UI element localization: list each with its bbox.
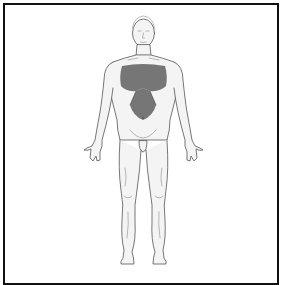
left-arm [84, 62, 113, 161]
right-arm [174, 62, 203, 161]
left-leg [119, 140, 141, 264]
umbilicus [142, 117, 144, 119]
neck [136, 45, 151, 56]
body-figure [0, 0, 285, 285]
head [133, 16, 155, 47]
right-leg [146, 140, 168, 264]
